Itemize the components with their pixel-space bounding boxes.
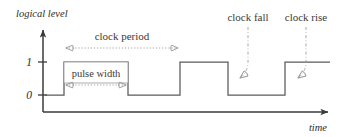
clock-rise-annotation: clock rise xyxy=(285,11,328,78)
clock-waveform-figure: logical level time 1 0 clock period puls… xyxy=(0,0,350,137)
waveform-diagram-canvas: logical level time 1 0 clock period puls… xyxy=(0,0,350,137)
clock-fall-annotation: clock fall xyxy=(227,11,268,78)
y-axis-title: logical level xyxy=(16,8,68,19)
y-tick-label-0: 0 xyxy=(26,89,32,101)
clock-rise-leader-line xyxy=(298,27,306,78)
pulse-width-label: pulse width xyxy=(72,68,121,79)
pulse-width-annotation: pulse width xyxy=(64,62,128,85)
clock-fall-leader-line xyxy=(240,27,248,78)
clock-period-label: clock period xyxy=(95,30,150,42)
clock-fall-label: clock fall xyxy=(227,11,268,23)
clock-rise-label: clock rise xyxy=(285,11,328,23)
clock-period-annotation: clock period xyxy=(66,30,178,48)
x-axis-title: time xyxy=(309,122,327,133)
y-tick-label-1: 1 xyxy=(26,56,32,68)
